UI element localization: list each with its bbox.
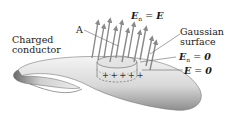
gaussian-surface-label: Gaussian surface (180, 27, 224, 47)
en-equals-e-label: En = E (131, 11, 163, 24)
e-equals-zero-label: E = 0 (184, 66, 212, 76)
gauss-law-conductor-diagram: +++++ Charged conductor A Gaussian surfa… (0, 0, 234, 127)
surface-charges: +++++ (102, 71, 146, 81)
en-equals-zero-label: En = 0 (179, 52, 211, 65)
charged-conductor-label: Charged conductor (12, 35, 61, 55)
point-a-label: A (76, 25, 83, 35)
cylinder-top (97, 56, 137, 68)
